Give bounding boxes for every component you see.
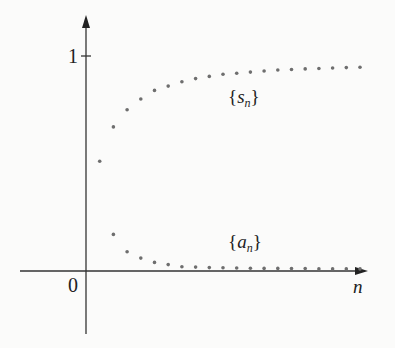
data-point-s — [139, 97, 143, 101]
data-point-s — [303, 67, 307, 71]
data-point-a — [345, 267, 349, 271]
data-point-a — [317, 267, 321, 271]
data-point-s — [180, 80, 184, 84]
y-tick-label: 1 — [68, 45, 78, 67]
data-point-s — [125, 108, 129, 112]
data-point-s — [345, 66, 349, 70]
data-point-s — [194, 77, 198, 81]
data-point-a — [249, 266, 253, 270]
data-point-a — [153, 261, 157, 265]
data-point-a — [112, 233, 116, 237]
data-point-a — [166, 263, 170, 267]
x-axis-label: n — [353, 276, 363, 297]
data-point-a — [358, 267, 362, 271]
data-point-a — [180, 265, 184, 269]
data-point-a — [262, 267, 266, 271]
data-point-s — [166, 84, 170, 88]
chart: 1 0 n {sn} {an} — [0, 0, 395, 348]
origin-label: 0 — [68, 274, 78, 296]
data-point-a — [194, 265, 198, 269]
series-label-a: {an} — [228, 231, 262, 255]
data-point-a — [125, 250, 129, 254]
data-point-a — [290, 267, 294, 271]
data-point-s — [262, 69, 266, 73]
chart-canvas: 1 0 n {sn} {an} — [0, 0, 395, 348]
data-point-a — [208, 266, 212, 270]
data-point-a — [221, 266, 225, 270]
data-point-s — [358, 65, 362, 69]
data-point-s — [221, 73, 225, 77]
data-point-s — [208, 75, 212, 79]
data-point-s — [235, 71, 239, 75]
data-point-s — [153, 89, 157, 93]
data-point-s — [249, 70, 253, 74]
data-point-a — [139, 256, 143, 260]
data-point-a — [303, 267, 307, 271]
data-point-s — [98, 160, 102, 164]
data-point-s — [112, 125, 116, 129]
data-point-s — [276, 68, 280, 72]
data-point-s — [290, 68, 294, 72]
data-point-s — [317, 67, 321, 71]
y-axis-arrow-icon — [82, 15, 90, 28]
data-point-a — [331, 267, 335, 271]
data-point-a — [276, 267, 280, 271]
data-point-a — [235, 266, 239, 270]
data-point-s — [331, 66, 335, 70]
series-label-s: {sn} — [228, 86, 260, 110]
